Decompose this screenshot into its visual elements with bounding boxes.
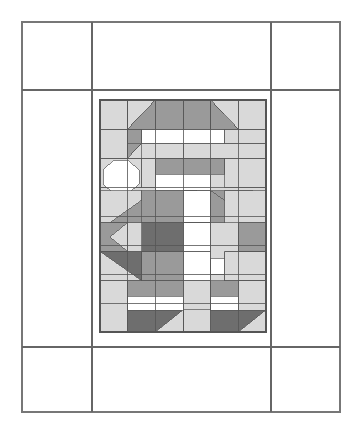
unit-sky-right-top: [238, 100, 266, 129]
unit-hat-crown-center-right: [183, 100, 211, 129]
unit-torso-upper-left: [142, 191, 184, 223]
unit-coat-center-white: [183, 252, 211, 281]
unit-buckle-white: [183, 223, 211, 252]
unit-below-band-right: [183, 144, 266, 159]
unit-brow-band-gray: [155, 158, 224, 174]
unit-sky-left-top: [100, 100, 128, 129]
unit-sky-left-row1: [100, 129, 128, 158]
unit-shoulder-right-bg: [225, 191, 267, 223]
unit-face-corner-ne: [225, 158, 267, 187]
unit-hat-band-left: [128, 129, 142, 144]
unit-hat-band-right-gray: [225, 129, 267, 144]
unit-mitten-right-bg: [225, 252, 267, 281]
quilt-pattern-canvas: [0, 0, 356, 432]
quilt-diagram-svg: [0, 0, 356, 432]
unit-below-band-left: [142, 144, 184, 159]
unit-face-octagon: [103, 160, 139, 194]
unit-hat-crown-center-left: [155, 100, 183, 129]
unit-coat-lower-left: [142, 252, 184, 281]
unit-collar-center-white: [183, 191, 211, 223]
unit-arm-right-outer: [238, 223, 266, 252]
unit-bg-left-lower: [100, 281, 128, 333]
unit-leg-center-light: [183, 281, 211, 310]
